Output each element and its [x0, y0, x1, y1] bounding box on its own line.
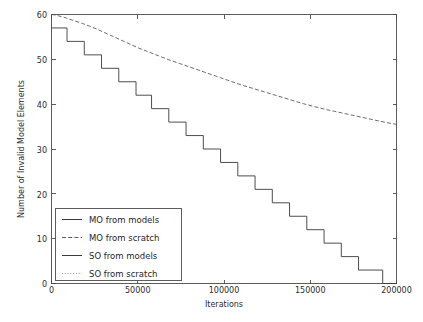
x-tick-label-100000: 100000 [209, 286, 240, 295]
y-tick-label-60: 60 [37, 11, 47, 20]
legend-label-mo-from-scratch: MO from scratch [89, 233, 159, 243]
y-axis-title: Number of Invalid Model Elements [17, 80, 26, 218]
line-chart: 0 10 20 30 40 50 60 0 50000 100000 15000… [0, 0, 423, 322]
x-tick-label-150000: 150000 [295, 286, 326, 295]
legend-label-so-from-scratch: SO from scratch [89, 269, 157, 279]
legend-label-mo-from-models: MO from models [89, 215, 160, 225]
legend-label-so-from-models: SO from models [89, 251, 158, 261]
chart-figure: 0 10 20 30 40 50 60 0 50000 100000 15000… [0, 0, 423, 322]
y-tick-label-50: 50 [37, 56, 47, 65]
x-tick-label-200000: 200000 [381, 286, 412, 295]
x-axis-title: Iterations [205, 300, 243, 309]
y-tick-label-20: 20 [37, 191, 47, 200]
y-tick-label-30: 30 [37, 146, 47, 155]
y-tick-label-0: 0 [42, 280, 47, 289]
y-tick-label-10: 10 [37, 235, 47, 244]
x-tick-label-50000: 50000 [125, 286, 150, 295]
y-tick-label-40: 40 [37, 101, 47, 110]
legend: MO from models MO from scratch SO from m… [56, 209, 182, 281]
x-tick-label-0: 0 [49, 286, 54, 295]
